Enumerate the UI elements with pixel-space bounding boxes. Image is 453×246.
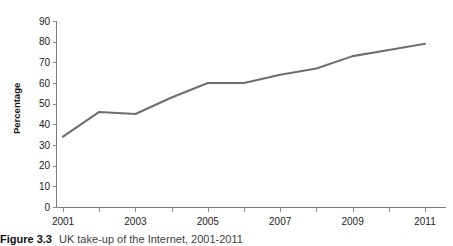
x-axis-tick-marks xyxy=(64,208,426,213)
x-axis-tick-label: 2003 xyxy=(124,216,147,227)
x-axis-tick-label: 2007 xyxy=(269,216,292,227)
y-axis-tick-marks xyxy=(53,22,57,208)
figure-container: 0102030405060708090 20012003200520072009… xyxy=(0,0,453,246)
y-axis-title: Percentage xyxy=(11,83,22,134)
x-axis-tick-label: 2005 xyxy=(197,216,220,227)
line-chart: 0102030405060708090 20012003200520072009… xyxy=(0,0,453,232)
y-axis-tick-label: 0 xyxy=(44,202,50,213)
figure-caption: Figure 3.3UK take-up of the Internet, 20… xyxy=(0,233,453,246)
y-axis-tick-label: 20 xyxy=(39,160,51,171)
y-axis-tick-label: 80 xyxy=(39,36,51,47)
caption-text: UK take-up of the Internet, 2001-2011 xyxy=(59,233,243,245)
data-series-line xyxy=(63,44,425,137)
x-axis-tick-labels: 200120032005200720092011 xyxy=(52,216,436,227)
y-axis-tick-label: 30 xyxy=(39,140,51,151)
caption-label: Figure 3.3 xyxy=(0,233,52,245)
x-axis-tick-label: 2011 xyxy=(414,216,436,227)
x-axis-tick-label: 2009 xyxy=(341,216,364,227)
y-axis-tick-labels: 0102030405060708090 xyxy=(39,16,51,213)
y-axis-tick-label: 70 xyxy=(39,57,51,68)
y-axis-tick-label: 60 xyxy=(39,78,51,89)
chart-canvas: 0102030405060708090 20012003200520072009… xyxy=(0,0,453,232)
y-axis-tick-label: 40 xyxy=(39,119,51,130)
x-axis-tick-label: 2001 xyxy=(52,216,75,227)
y-axis-tick-label: 90 xyxy=(39,16,51,27)
y-axis-tick-label: 50 xyxy=(39,98,51,109)
y-axis-tick-label: 10 xyxy=(39,181,51,192)
